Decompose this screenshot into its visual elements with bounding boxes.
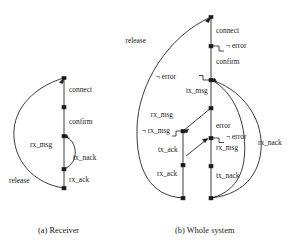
node-b-confirm — [209, 79, 213, 82]
node-a-rxack — [62, 168, 66, 171]
edge-label-tx-nack: tx_nack — [216, 171, 240, 180]
node-b-txmsg — [209, 107, 213, 110]
node-b-top — [209, 16, 213, 19]
node-b-rxmsg — [209, 165, 213, 168]
arc-a-release — [14, 78, 64, 188]
edge-label-release: release — [9, 176, 30, 185]
edge-label-rx-ack: rx_ack — [157, 169, 177, 178]
edge-label-connect: connect — [216, 26, 240, 35]
diagram-canvas: connect confirm rx_msg tx_nack rx_ack re… — [0, 0, 302, 252]
node-b-txack — [181, 164, 185, 167]
panel-a-receiver: connect confirm rx_msg tx_nack rx_ack re… — [9, 77, 97, 190]
node-a-confirm — [62, 106, 66, 109]
node-b-error — [209, 137, 213, 140]
edge-label-not-rx-msg: ¬ rx_msg — [142, 126, 170, 135]
node-b-bottom-left — [181, 197, 185, 200]
edge-label-rx-ack: rx_ack — [69, 175, 89, 184]
edge-label-tx-ack: tx_ack — [158, 145, 178, 154]
node-a-bottom — [62, 187, 66, 190]
figure-root: connect confirm rx_msg tx_nack rx_ack re… — [0, 0, 302, 252]
edge-label-not-error-3: ¬ error — [226, 132, 247, 141]
edge-label-rx-msg: rx_msg — [30, 140, 52, 149]
caption-panel-b: (b) Whole system — [175, 226, 234, 235]
edge-label-connect: connect — [69, 85, 93, 94]
edge-b-short-arrow — [186, 140, 206, 156]
edge-label-rx-msg-lower: rx_msg — [216, 143, 238, 152]
edge-label-tx-msg: tx_msg — [186, 86, 208, 95]
node-b-connect — [209, 45, 213, 48]
edge-label-error: error — [216, 121, 231, 130]
panel-b-whole-system: connect ¬ error confirm ¬ error tx_msg r… — [125, 16, 282, 200]
caption-panel-a: (a) Receiver — [38, 226, 79, 235]
edge-b-rx-msg-diagonal — [183, 108, 211, 131]
edge-label-rx-nack: rx_nack — [258, 138, 282, 147]
edge-label-release: release — [125, 36, 146, 45]
edge-label-confirm: confirm — [69, 117, 93, 126]
edge-label-confirm: confirm — [216, 57, 240, 66]
node-b-bottom-right — [209, 197, 213, 200]
node-a-top — [62, 77, 66, 80]
node-b-rxmsg-left — [181, 130, 185, 133]
edge-label-not-error-2: ¬ error — [156, 72, 177, 81]
edge-label-not-error-1: ¬ error — [226, 41, 247, 50]
edge-label-rx-msg-upper: rx_msg — [151, 110, 173, 119]
edge-label-tx-nack: tx_nack — [73, 153, 97, 162]
node-a-txnack — [62, 135, 66, 138]
